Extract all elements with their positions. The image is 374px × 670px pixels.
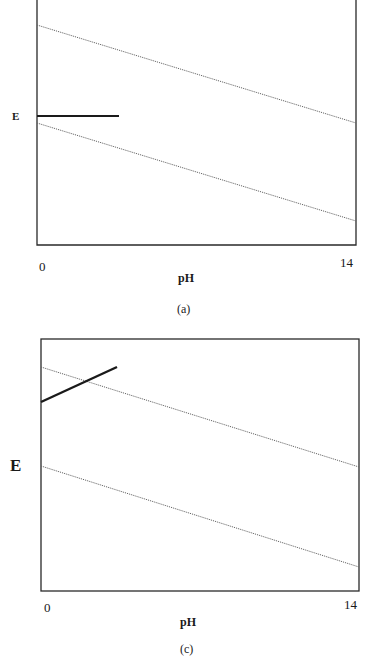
panel-a-lower-dotted-line: [37, 123, 356, 221]
panel-a-upper-dotted-line: [37, 25, 356, 123]
panel-c-frame: [41, 339, 359, 591]
panel-a-plot: [37, 0, 356, 245]
panel-c-y-axis-label: E: [10, 456, 21, 476]
pourbaix-diagrams: [0, 0, 374, 670]
panel-c-x-tick-0: 0: [44, 600, 51, 616]
panel-c-lower-dotted-line: [41, 466, 359, 567]
panel-c-upper-dotted-line: [41, 367, 359, 467]
panel-c-plot: [41, 339, 359, 591]
panel-a-x-tick-0: 0: [39, 259, 46, 275]
panel-c-x-axis-label: pH: [180, 615, 196, 630]
panel-a-y-axis-label: E: [12, 110, 19, 122]
panel-c-caption: (c): [180, 642, 193, 657]
panel-c-x-tick-14: 14: [344, 597, 357, 613]
panel-c-solid-line: [41, 367, 117, 402]
panel-a-caption: (a): [177, 302, 190, 317]
panel-a-frame: [37, 0, 356, 245]
panel-a-x-axis-label: pH: [178, 271, 194, 286]
panel-a-x-tick-14: 14: [340, 255, 353, 271]
